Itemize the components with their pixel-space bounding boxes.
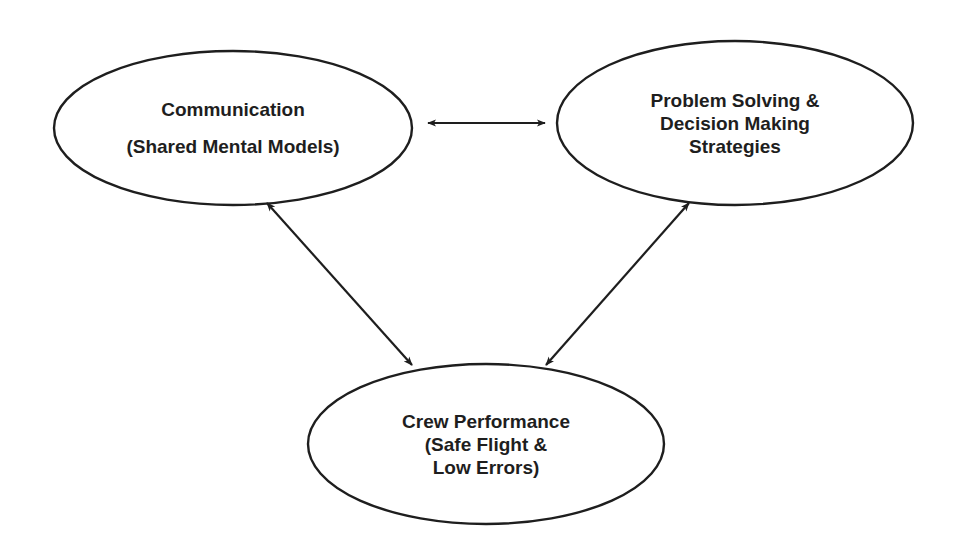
node-label-problem-solving: Problem Solving &Decision MakingStrategi… xyxy=(651,89,820,158)
bidirectional-arrow-icon-problem-solving-crew-performance xyxy=(546,203,689,365)
node-label-crew-performance: Crew Performance(Safe Flight &Low Errors… xyxy=(402,410,570,479)
node-label-line: Low Errors) xyxy=(402,456,570,479)
node-label-line: Decision Making xyxy=(651,112,820,135)
bidirectional-arrow-icon-communication-crew-performance xyxy=(267,203,412,365)
node-label-line: Problem Solving & xyxy=(651,89,820,112)
node-label-line: (Shared Mental Models) xyxy=(126,135,339,158)
node-label-communication: Communication (Shared Mental Models) xyxy=(126,98,339,158)
node-label-line: Strategies xyxy=(651,135,820,158)
node-label-line: (Safe Flight & xyxy=(402,433,570,456)
node-label-line xyxy=(126,121,339,135)
node-label-line: Crew Performance xyxy=(402,410,570,433)
